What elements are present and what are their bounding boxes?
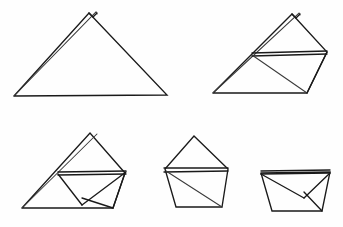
figure-canvas bbox=[0, 0, 343, 227]
panel-1-hit-area[interactable] bbox=[4, 4, 176, 108]
panel-step-2-corner-folded-up[interactable] bbox=[206, 4, 340, 108]
diagram-root bbox=[0, 0, 343, 227]
panel-step-1-folded-triangle[interactable] bbox=[4, 4, 176, 108]
panel-step-4-pentagon-cup[interactable] bbox=[156, 128, 238, 216]
panel-step-3-envelope-fold[interactable] bbox=[12, 124, 140, 220]
panel-step-5-finished-cup[interactable] bbox=[253, 162, 339, 220]
